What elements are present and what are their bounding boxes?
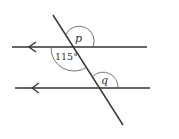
parallel-lines-diagram: p 115° q — [0, 0, 179, 139]
angle-q-label: q — [101, 74, 108, 87]
angle-115-label: 115° — [55, 51, 78, 62]
transversal-line — [53, 15, 123, 125]
angle-p-label: p — [75, 32, 82, 45]
